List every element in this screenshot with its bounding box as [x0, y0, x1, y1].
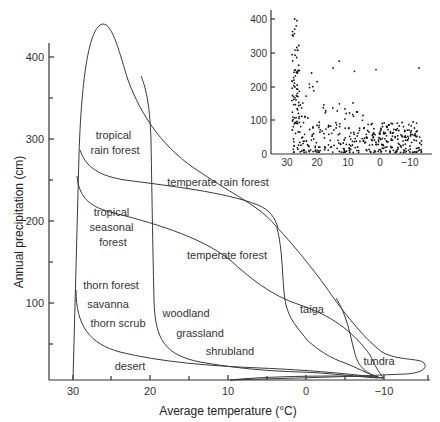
y-tick-100: 100	[26, 297, 44, 309]
label-grassland: grassland	[176, 327, 224, 339]
inset-x-tick-30: 30	[281, 157, 293, 168]
y-axis-label: Annual precipitation (cm)	[12, 156, 26, 289]
x-tick-20: 20	[144, 385, 156, 397]
label-tropical-seasonal-forest: tropical seasonal forest	[89, 206, 136, 248]
label-shrubland: shrubland	[206, 345, 254, 357]
label-woodland: woodland	[161, 307, 209, 319]
inset-data-points	[291, 18, 422, 153]
inset-x-tick-0: 0	[377, 157, 383, 168]
inset-y-tick-300: 300	[250, 48, 267, 59]
inset-y-tick-0: 0	[261, 149, 267, 160]
inset-y-tick-100: 100	[250, 115, 267, 126]
inset-y-tick-400: 400	[250, 14, 267, 25]
y-tick-300: 300	[26, 133, 44, 145]
biome-diagram: 400 300 200 100 30 20 10 0 −10 Average t…	[0, 0, 440, 422]
label-tundra: tundra	[363, 355, 395, 367]
label-taiga: taiga	[300, 303, 325, 315]
x-tick-10: 10	[222, 385, 234, 397]
inset-x-tick-20: 20	[311, 157, 323, 168]
inset-y-tick-200: 200	[250, 82, 267, 93]
label-thorn-scrub: thorn scrub	[90, 317, 145, 329]
label-tropical-rain-forest: tropical rain forest	[91, 129, 140, 156]
label-temperate-rain-forest: temperate rain forest	[167, 176, 269, 188]
label-desert: desert	[115, 360, 146, 372]
x-tick-30: 30	[67, 385, 79, 397]
x-tick-neg10: −10	[375, 385, 394, 397]
x-tick-0: 0	[303, 385, 309, 397]
label-savanna: savanna	[87, 298, 129, 310]
inset-x-tick-neg10: −10	[402, 157, 419, 168]
label-thorn-forest: thorn forest	[83, 279, 139, 291]
inset-x-tick-10: 10	[342, 157, 354, 168]
x-axis-label: Average temperature (°C)	[159, 404, 296, 418]
label-temperate-forest: temperate forest	[187, 249, 267, 261]
inset-scatter: 400 300 200 100 0 30 20 10 0 −10	[250, 10, 432, 168]
y-tick-200: 200	[26, 215, 44, 227]
y-tick-400: 400	[26, 51, 44, 63]
